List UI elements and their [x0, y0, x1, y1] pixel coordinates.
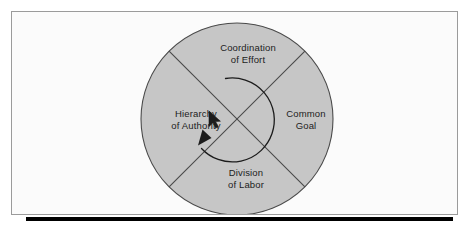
quadrant-label-coordination-line2: of Effort: [197, 54, 299, 66]
quadrant-label-common-goal-line1: Common: [286, 108, 325, 119]
quadrant-label-hierarchy-line1: Hierarchy: [175, 108, 217, 119]
quadrant-label-coordination: Coordination of Effort: [197, 42, 299, 65]
quadrant-label-common-goal: Common Goal: [270, 108, 342, 131]
quadrant-label-hierarchy-line2: of Authority: [152, 120, 240, 132]
diagram-canvas: Coordination of Effort Common Goal Divis…: [12, 12, 457, 214]
quadrant-label-coordination-line1: Coordination: [220, 42, 276, 53]
frame-shadow-bar: [26, 217, 453, 221]
quadrant-label-division-line2: of Labor: [200, 179, 292, 191]
quadrant-label-hierarchy: Hierarchy of Authority: [152, 108, 240, 131]
slide-frame: Coordination of Effort Common Goal Divis…: [11, 11, 458, 215]
figure-root: Coordination of Effort Common Goal Divis…: [0, 0, 472, 241]
quadrant-label-division-line1: Division: [229, 167, 263, 178]
quadrant-label-common-goal-line2: Goal: [270, 120, 342, 132]
quadrant-label-division: Division of Labor: [200, 167, 292, 190]
